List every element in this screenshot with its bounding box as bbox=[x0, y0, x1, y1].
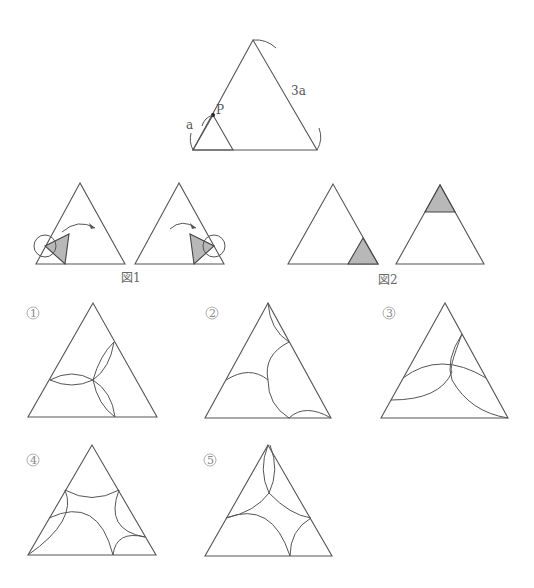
figure-1-caption: 図1 bbox=[121, 271, 141, 285]
option-3-arc-top bbox=[403, 364, 486, 378]
option-2-arc-left bbox=[226, 373, 268, 381]
option-4-arc-top bbox=[65, 490, 119, 498]
fig2-left-shaded-triangle bbox=[348, 238, 378, 264]
option-2[interactable]: 2 bbox=[205, 303, 331, 418]
option-1-label: 1 bbox=[30, 307, 37, 320]
option-1[interactable]: 1 bbox=[27, 303, 157, 417]
option-3-label: 3 bbox=[386, 307, 393, 320]
option-5-arc-top-lens bbox=[263, 445, 275, 493]
option-4-arc-right bbox=[115, 490, 145, 537]
option-5-arc-big bbox=[226, 514, 290, 556]
option-5-triangle bbox=[205, 445, 332, 556]
option-2-label: 2 bbox=[209, 307, 216, 320]
option-5[interactable]: 5 bbox=[204, 445, 332, 556]
diagram-canvas: P a 3a 図1 図2 1 2 bbox=[0, 0, 534, 588]
small-triangle bbox=[193, 115, 233, 150]
option-1-petal-left bbox=[50, 374, 93, 385]
option-5-arc-upper-left bbox=[226, 493, 269, 518]
option-1-petal-upper bbox=[93, 342, 114, 380]
figure-1: 図1 bbox=[34, 183, 225, 285]
option-4[interactable]: 4 bbox=[27, 445, 156, 555]
left-arc bbox=[190, 133, 193, 150]
right-arc bbox=[317, 128, 321, 150]
label-a: a bbox=[186, 118, 193, 132]
fig2-right-shaded-triangle bbox=[425, 185, 455, 212]
label-3a: 3a bbox=[291, 84, 306, 98]
figure-2: 図2 bbox=[288, 184, 484, 287]
option-4-arc-small bbox=[113, 535, 145, 555]
option-4-label: 4 bbox=[30, 454, 37, 467]
top-figure: P a 3a bbox=[186, 40, 321, 150]
option-3[interactable]: 3 bbox=[381, 303, 508, 418]
option-5-arc-upper-right bbox=[269, 493, 311, 518]
option-4-triangle bbox=[28, 445, 156, 555]
option-1-petal-lower bbox=[93, 380, 115, 417]
option-5-arc-right bbox=[290, 518, 311, 556]
option-2-arc-bottom bbox=[289, 411, 331, 419]
option-2-triangle bbox=[205, 303, 331, 418]
arrowhead-icon bbox=[190, 223, 196, 229]
option-4-arc-big bbox=[49, 512, 113, 555]
fig1-left-shaded-triangle bbox=[45, 234, 69, 264]
option-3-arc-left bbox=[391, 334, 462, 400]
option-1-triangle bbox=[28, 303, 157, 417]
option-5-label: 5 bbox=[207, 454, 214, 467]
option-3-triangle bbox=[381, 303, 508, 418]
figure-2-caption: 図2 bbox=[378, 273, 398, 287]
option-2-arc-middle bbox=[267, 342, 289, 418]
label-p: P bbox=[216, 103, 224, 117]
option-3-arc-right bbox=[450, 334, 508, 418]
